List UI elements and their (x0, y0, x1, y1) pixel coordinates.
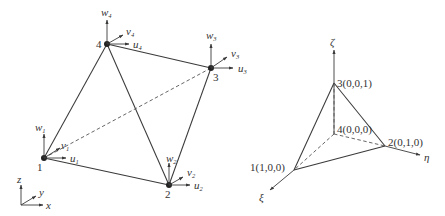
z-axis-label: z (16, 173, 22, 185)
w1-label: w1 (35, 121, 46, 134)
global-axes-triad: z y x (16, 173, 51, 211)
v4-arrow-icon (107, 35, 123, 44)
u4-label: u4 (133, 38, 143, 51)
node-4-label: 4 (96, 38, 102, 50)
v3-label: v3 (231, 47, 240, 60)
node-3-label: 3 (213, 71, 219, 83)
u1-label: u1 (70, 152, 79, 165)
node-4: 4 w4 v4 u4 (96, 6, 143, 51)
node-2: 2 w2 v2 u2 (165, 152, 204, 200)
v1-label: v1 (61, 139, 69, 152)
diagram-canvas: 4 w4 v4 u4 3 w3 v3 u3 1 w1 v1 u1 (0, 0, 445, 216)
x-axis-label: x (45, 199, 51, 211)
y-axis-arrow-icon (21, 196, 36, 205)
u2-label: u2 (194, 179, 204, 192)
w3-label: w3 (206, 29, 217, 42)
zeta-axis-label: ζ (330, 36, 336, 49)
ref-node-1-label: 1(1,0,0) (250, 161, 285, 174)
ref-edge-1-3 (294, 83, 334, 170)
ref-node-3-label: 3(0,0,1) (337, 77, 372, 90)
node-3: 3 w3 v3 u3 (206, 29, 248, 83)
edge-4-3 (107, 44, 211, 68)
v4-label: v4 (126, 25, 135, 38)
global-tetrahedron: 4 w4 v4 u4 3 w3 v3 u3 1 w1 v1 u1 (16, 6, 248, 211)
v3-arrow-icon (211, 57, 227, 68)
edge-4-2 (107, 44, 169, 185)
edge-1-2 (44, 158, 169, 185)
xi-axis-arrow-icon (270, 170, 294, 190)
node-1: 1 w1 v1 u1 (35, 121, 79, 173)
w2-label: w2 (166, 152, 177, 165)
ref-node-2-label: 2(0,1,0) (388, 136, 423, 149)
node-2-label: 2 (165, 188, 171, 200)
eta-axis-label: η (424, 151, 429, 163)
xi-axis-label: ξ (259, 191, 264, 204)
reference-tetrahedron: ζ η ξ 3(0,0,1) 4(0,0,0) 2(0,1,0) 1(1,0,0… (250, 36, 429, 204)
y-axis-label: y (38, 186, 44, 198)
w4-label: w4 (101, 6, 112, 19)
node-1-label: 1 (37, 161, 43, 173)
ref-edge-3-2 (334, 83, 385, 146)
edge-1-4 (44, 44, 107, 158)
u3-label: u3 (238, 62, 248, 75)
ref-edge-1-2 (294, 146, 385, 170)
v2-label: v2 (187, 166, 196, 179)
ref-node-4-label: 4(0,0,0) (337, 123, 372, 136)
